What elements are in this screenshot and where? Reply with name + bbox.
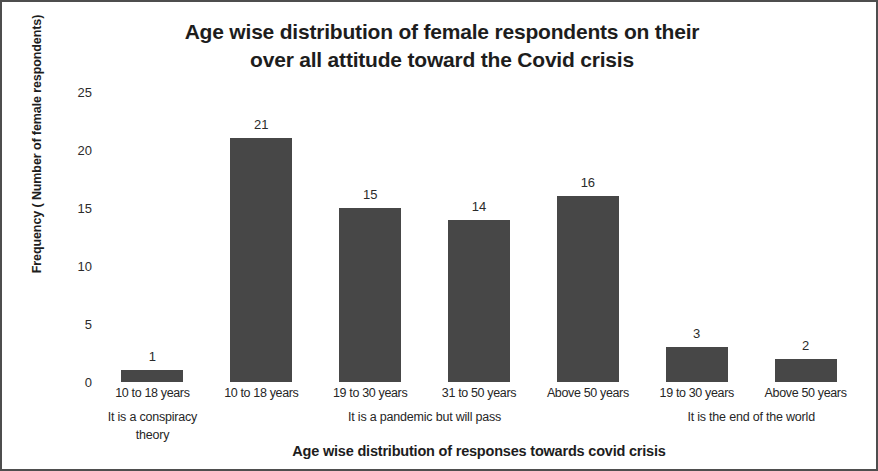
bar-slot: 21 — [207, 92, 316, 382]
y-axis-tick-label: 0 — [85, 375, 92, 390]
x-axis-category-label: 19 to 30 years — [642, 386, 751, 400]
x-axis-category-label: 31 to 50 years — [425, 386, 534, 400]
bar-slot: 15 — [316, 92, 425, 382]
bar[interactable] — [448, 220, 510, 382]
bar-slot: 16 — [533, 92, 642, 382]
chart-title: Age wise distribution of female responde… — [62, 18, 822, 73]
bar-value-label: 3 — [693, 327, 700, 340]
y-axis-tick-label: 25 — [78, 85, 92, 100]
bar-value-label: 1 — [149, 350, 156, 363]
y-axis-tick-label: 15 — [78, 201, 92, 216]
bar[interactable] — [339, 208, 401, 382]
y-axis-title: Frequency ( Number of female respondents… — [30, 0, 44, 289]
chart-title-line-1: Age wise distribution of female responde… — [62, 18, 822, 46]
bar-series: 12115141632 — [98, 92, 860, 382]
bar-slot: 2 — [751, 92, 860, 382]
x-axis-group-labels: It is a conspiracy theoryIt is a pandemi… — [98, 408, 860, 444]
x-axis-title: Age wise distribution of responses towar… — [98, 443, 860, 459]
x-axis-category-label: 10 to 18 years — [207, 386, 316, 400]
bar-value-label: 15 — [363, 188, 377, 201]
y-axis-tick-label: 20 — [78, 143, 92, 158]
bar-value-label: 2 — [802, 339, 809, 352]
x-axis-category-label: Above 50 years — [751, 386, 860, 400]
x-axis-category-labels: 10 to 18 years10 to 18 years19 to 30 yea… — [98, 386, 860, 400]
bar[interactable] — [230, 138, 292, 382]
x-axis-category-label: Above 50 years — [533, 386, 642, 400]
y-axis-tick-label: 5 — [85, 317, 92, 332]
y-axis-tick-label: 10 — [78, 259, 92, 274]
x-axis-category-label: 10 to 18 years — [98, 386, 207, 400]
x-axis-category-label: 19 to 30 years — [316, 386, 425, 400]
bar-value-label: 21 — [254, 118, 268, 131]
chart-title-line-2: over all attitude toward the Covid crisi… — [62, 46, 822, 74]
bar-slot: 1 — [98, 92, 207, 382]
bar-slot: 14 — [425, 92, 534, 382]
bar-slot: 3 — [642, 92, 751, 382]
bar[interactable] — [666, 347, 728, 382]
x-axis-group-label: It is a conspiracy theory — [98, 408, 207, 444]
bar[interactable] — [121, 370, 183, 382]
y-axis-ticks: 0510152025 — [64, 92, 92, 382]
x-axis-group-label: It is the end of the world — [642, 408, 860, 444]
bar[interactable] — [775, 359, 837, 382]
bar[interactable] — [557, 196, 619, 382]
plot-area: 0510152025 12115141632 — [98, 92, 860, 382]
bar-value-label: 14 — [472, 200, 486, 213]
x-axis-group-label: It is a pandemic but will pass — [207, 408, 642, 444]
chart-figure: Age wise distribution of female responde… — [0, 0, 878, 471]
bar-value-label: 16 — [581, 176, 595, 189]
